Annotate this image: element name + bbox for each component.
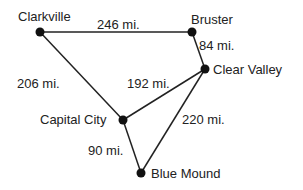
node-bruster xyxy=(188,28,197,37)
node-clear-valley xyxy=(201,65,210,74)
label-clear-valley: Clear Valley xyxy=(213,62,283,77)
edge-label-clarkville-bruster: 246 mi. xyxy=(97,17,140,32)
edge-label-clear-valley-blue-mound: 220 mi. xyxy=(182,112,225,127)
edge-label-clear-valley-capital-city: 192 mi. xyxy=(127,76,170,91)
edge-capital-city-blue-mound xyxy=(123,120,141,173)
label-bruster: Bruster xyxy=(191,12,234,27)
node-capital-city xyxy=(119,116,128,125)
node-clarkville xyxy=(36,28,45,37)
label-blue-mound: Blue Mound xyxy=(151,166,220,181)
road-map-diagram: Clarkville Bruster Clear Valley Capital … xyxy=(0,0,303,190)
edge-label-bruster-clear-valley: 84 mi. xyxy=(199,38,234,53)
edge-label-capital-city-blue-mound: 90 mi. xyxy=(88,143,123,158)
label-clarkville: Clarkville xyxy=(18,9,71,24)
node-blue-mound xyxy=(137,169,146,178)
label-capital-city: Capital City xyxy=(40,112,107,127)
edge-label-clarkville-capital-city: 206 mi. xyxy=(17,76,60,91)
